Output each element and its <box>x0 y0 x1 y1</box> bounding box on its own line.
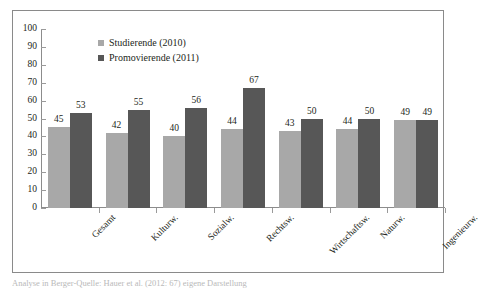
y-tick-10 <box>41 190 46 191</box>
y-tick-50 <box>41 119 46 120</box>
bar-value-label: 50 <box>307 107 317 117</box>
bar-Sozialw.-series-0 <box>163 136 185 208</box>
bar-value-label: 45 <box>54 115 64 125</box>
bar-value-label: 53 <box>76 101 86 111</box>
y-tick-70 <box>41 83 46 84</box>
y-tick-label-80: 80 <box>28 60 38 70</box>
legend-item-studierende: Studierende (2010) <box>98 38 199 48</box>
bar-value-label: 55 <box>134 98 144 108</box>
x-tick-1 <box>156 208 157 213</box>
y-tick-30 <box>41 154 46 155</box>
x-tick-4 <box>330 208 331 213</box>
x-tick-3 <box>272 208 273 213</box>
bar-Kulturw.-series-1 <box>128 110 150 208</box>
legend-swatch-icon-studierende <box>98 40 104 46</box>
x-category-label-Gesamt: Gesamt <box>90 213 117 240</box>
legend-label-promovierende: Promovierende (2011) <box>109 53 199 63</box>
x-category-label-Rechtsw.: Rechtsw. <box>265 213 296 244</box>
bar-value-label: 44 <box>227 117 237 127</box>
y-tick-label-70: 70 <box>28 78 38 88</box>
y-tick-label-100: 100 <box>23 24 37 34</box>
bar-Rechtsw.-series-0 <box>221 129 243 208</box>
bar-value-label: 67 <box>249 76 259 86</box>
y-tick-label-20: 20 <box>28 167 38 177</box>
legend-swatch-icon-promovierende <box>98 55 104 61</box>
y-tick-80 <box>41 65 46 66</box>
bar-Gesamt-series-0 <box>48 127 70 208</box>
x-category-label-Sozialw.: Sozialw. <box>207 213 237 243</box>
y-tick-label-30: 30 <box>28 150 38 160</box>
bar-value-label: 50 <box>365 107 375 117</box>
y-tick-label-90: 90 <box>28 42 38 52</box>
bar-value-label: 56 <box>192 96 202 106</box>
chart-legend: Studierende (2010) Promovierende (2011) <box>98 38 199 68</box>
bar-Gesamt-series-1 <box>70 113 92 208</box>
bar-value-label: 40 <box>170 124 180 134</box>
x-category-label-Kulturw.: Kulturw. <box>149 213 179 243</box>
x-category-label-Wirtschaftsw.: Wirtschaftsw. <box>328 213 372 257</box>
legend-item-promovierende: Promovierende (2011) <box>98 53 199 63</box>
bar-value-label: 42 <box>112 121 122 131</box>
bar-value-label: 44 <box>343 117 353 127</box>
y-tick-60 <box>41 101 46 102</box>
figure-frame: 0102030405060708090100 45534255405644674… <box>12 10 444 273</box>
x-tick-6 <box>445 208 446 213</box>
y-tick-label-50: 50 <box>28 114 38 124</box>
bar-Rechtsw.-series-1 <box>243 88 265 208</box>
y-tick-100 <box>41 29 46 30</box>
bar-value-label: 49 <box>400 108 410 118</box>
bar-Naturw.-series-1 <box>358 119 380 209</box>
bar-Wirtschaftsw.-series-1 <box>301 119 323 209</box>
y-tick-20 <box>41 172 46 173</box>
bar-value-label: 49 <box>422 108 432 118</box>
bar-Wirtschaftsw.-series-0 <box>279 131 301 208</box>
x-tick-5 <box>387 208 388 213</box>
bar-Ingenieurw.-series-1 <box>416 120 438 208</box>
y-tick-40 <box>41 136 46 137</box>
x-category-label-Naturw.: Naturw. <box>379 213 407 241</box>
y-tick-label-0: 0 <box>32 203 37 213</box>
y-tick-label-10: 10 <box>28 185 38 195</box>
y-tick-label-60: 60 <box>28 96 38 106</box>
legend-label-studierende: Studierende (2010) <box>109 38 186 48</box>
y-tick-90 <box>41 47 46 48</box>
bar-Ingenieurw.-series-0 <box>394 120 416 208</box>
bar-value-label: 43 <box>285 119 295 129</box>
bar-Naturw.-series-0 <box>336 129 358 208</box>
y-tick-0 <box>41 208 46 209</box>
x-tick-0 <box>99 208 100 213</box>
x-tick-2 <box>214 208 215 213</box>
bar-Kulturw.-series-0 <box>106 133 128 208</box>
bar-Sozialw.-series-1 <box>185 108 207 208</box>
figure-caption: Analyse in Berger-Quelle: Hauer et al. (… <box>12 279 442 288</box>
y-tick-label-40: 40 <box>28 132 38 142</box>
x-category-label-Ingenieurw.: Ingenieurw. <box>441 213 480 252</box>
